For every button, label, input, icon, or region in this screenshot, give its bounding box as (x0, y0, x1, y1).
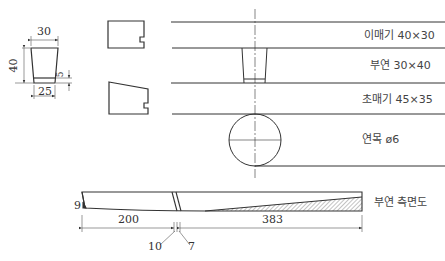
dim-left-length: 200 (118, 214, 139, 225)
dim-right-length: 383 (262, 214, 283, 225)
block-section (31, 48, 58, 83)
layer-label-1: 이매기 40×30 (364, 30, 435, 41)
drawing-canvas: 30 40 25 5 이매기 40×30 부연 30×40 초매기 45×35 … (0, 0, 445, 261)
dim-top-width: 30 (37, 26, 51, 37)
dim-tip: 9 (74, 200, 81, 211)
layer-label-2: 부연 30×40 (370, 60, 431, 71)
dim-height: 40 (8, 59, 19, 73)
side-view-label: 부연 측면도 (374, 197, 428, 208)
side-view (82, 192, 362, 211)
dim-slot-b: 7 (188, 241, 195, 252)
dim-bottom-width: 25 (38, 86, 52, 97)
profile-bottom (109, 82, 148, 114)
dim-slot-a: 10 (148, 241, 162, 252)
profile-top (108, 21, 144, 48)
dim-lip: 5 (56, 72, 65, 78)
layer-label-3: 초매기 45×35 (362, 94, 433, 105)
layer-label-4: 연목 ø6 (362, 134, 399, 145)
